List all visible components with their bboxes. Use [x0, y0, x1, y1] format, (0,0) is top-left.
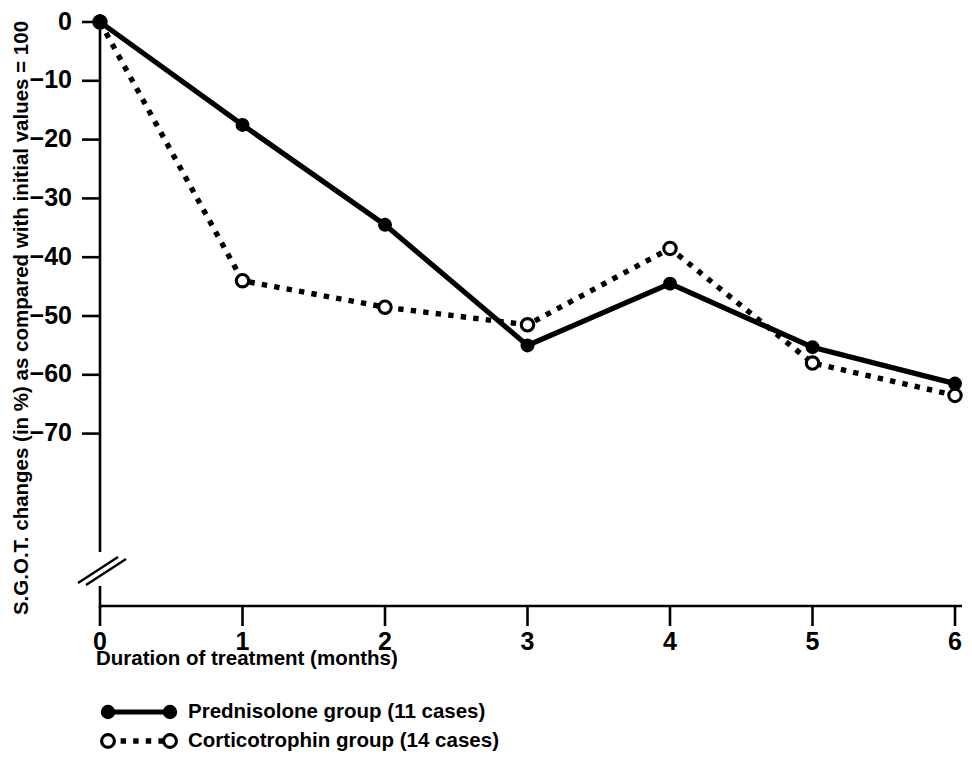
x-axis: 0123456 Duration of treatment (months): [93, 606, 962, 669]
y-tick-label: −10: [30, 65, 72, 93]
data-point-marker: [521, 319, 533, 331]
legend-marker: [164, 735, 177, 748]
data-point-marker: [522, 339, 534, 351]
y-tick-group: 0−10−20−30−40−50−60−70: [30, 7, 100, 447]
series-layer: [94, 16, 961, 402]
y-tick-label: 0: [58, 7, 72, 35]
y-tick-label: −70: [30, 418, 72, 446]
y-tick-label: −20: [30, 124, 72, 152]
data-point-marker: [94, 16, 106, 28]
data-point-marker: [236, 275, 248, 287]
legend-marker: [164, 706, 176, 718]
data-series: [94, 16, 961, 390]
data-point-marker: [379, 301, 391, 313]
y-axis-title: S.G.O.T. changes (in %) as compared with…: [9, 21, 32, 615]
data-point-marker: [949, 389, 961, 401]
y-tick-label: −30: [30, 183, 72, 211]
chart-legend: Prednisolone group (11 cases)Corticotrop…: [102, 699, 499, 751]
data-point-marker: [807, 341, 819, 353]
data-point-marker: [237, 119, 249, 131]
legend-label: Prednisolone group (11 cases): [188, 699, 485, 722]
legend-label: Corticotrophin group (14 cases): [188, 728, 499, 751]
sgot-line-chart: S.G.O.T. changes (in %) as compared with…: [0, 0, 972, 765]
x-axis-title: Duration of treatment (months): [96, 646, 398, 669]
data-point-marker: [379, 219, 391, 231]
legend-marker: [102, 735, 115, 748]
x-tick-label: 6: [948, 627, 962, 655]
y-tick-label: −60: [30, 359, 72, 387]
data-point-marker: [949, 378, 961, 390]
legend-item: Corticotrophin group (14 cases): [102, 728, 499, 751]
y-axis: 0−10−20−30−40−50−60−70: [30, 7, 126, 608]
axis-break-slash-upper: [86, 559, 126, 585]
legend-marker: [102, 706, 114, 718]
x-tick-label: 3: [521, 627, 535, 655]
y-tick-label: −40: [30, 242, 72, 270]
data-point-marker: [664, 278, 676, 290]
chart-figure: S.G.O.T. changes (in %) as compared with…: [0, 0, 972, 765]
y-axis-title-group: S.G.O.T. changes (in %) as compared with…: [9, 21, 32, 615]
data-point-marker: [664, 242, 676, 254]
x-tick-label: 5: [806, 627, 820, 655]
data-point-marker: [806, 357, 818, 369]
axis-break-slash-lower: [78, 557, 118, 583]
y-tick-label: −50: [30, 301, 72, 329]
x-tick-label: 4: [663, 627, 677, 655]
legend-item: Prednisolone group (11 cases): [102, 699, 486, 722]
